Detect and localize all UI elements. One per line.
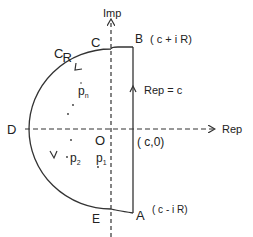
bromwich-contour-diagram: Imp Rep C B ( c + i R) CR Rep = c D O ( … xyxy=(0,0,253,237)
point-c0-coord: ( c,0) xyxy=(137,135,164,149)
pole-p2-label: p2 xyxy=(70,151,81,166)
contour-label: CR xyxy=(54,46,72,65)
point-b-label: B xyxy=(135,32,143,46)
pole-p1-label: p1 xyxy=(96,151,107,166)
pole-dot xyxy=(70,139,72,141)
pole-dot xyxy=(72,104,74,106)
origin-label: O xyxy=(95,133,105,148)
pole-dot xyxy=(67,113,69,115)
bromwich-line-label: Rep = c xyxy=(144,84,183,96)
pole-dot xyxy=(66,156,68,158)
point-a-coord: ( c - i R) xyxy=(152,204,188,215)
point-d-label: D xyxy=(7,122,16,137)
point-b-coord: ( c + i R) xyxy=(150,33,192,45)
point-c-label: C xyxy=(91,35,100,50)
point-a-label: A xyxy=(136,208,145,223)
pole-pn-label: pn xyxy=(78,84,89,99)
arc-arrow-lower-icon xyxy=(50,151,57,158)
pole-dot xyxy=(97,166,99,168)
imaginary-axis-label: Imp xyxy=(103,7,121,19)
arc-arrow-upper-icon xyxy=(75,63,82,70)
point-e-label: E xyxy=(92,212,100,226)
real-axis-label: Rep xyxy=(222,123,242,135)
arc-contour xyxy=(29,47,133,213)
pole-dot xyxy=(80,82,82,84)
